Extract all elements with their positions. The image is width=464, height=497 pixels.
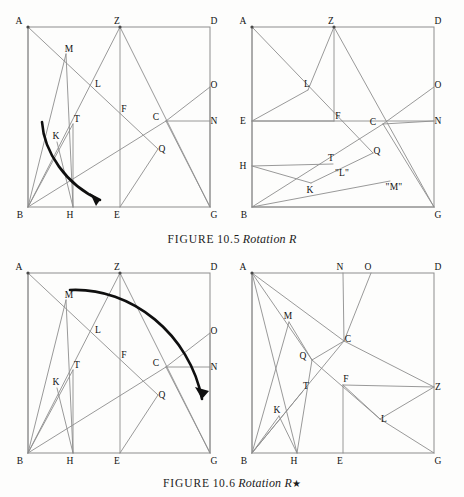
point-label-f: F — [343, 374, 348, 384]
segment-e-l — [252, 90, 308, 121]
point-label-e: E — [114, 210, 120, 220]
bounding-square — [28, 27, 210, 207]
figure-10-6-left-panel: AZDMLOFCNTKQBHEG — [4, 253, 230, 469]
point-label-b: B — [241, 456, 248, 466]
point-label-o: O — [364, 262, 371, 272]
figure-10-6-panels: AZDMLOFCNTKQBHEG ANODMCQFZTKLBHEG — [0, 253, 464, 475]
point-label-c: C — [153, 112, 160, 122]
point-label-c: C — [370, 117, 377, 127]
point-label-a: A — [239, 16, 246, 26]
point-label-g: G — [210, 210, 217, 220]
diagram-rotation-r-after: AZDLOEFCNQHTKBG"L""M" — [232, 0, 458, 222]
segment-c-g — [166, 121, 210, 207]
figure-10-6-right-panel: ANODMCQFZTKLBHEG — [232, 253, 458, 469]
point-label-o: O — [434, 80, 441, 90]
figure-page: AZDMLOFCNTKQBHEG AZDLOEFCNQHTKBG"L""M" F… — [0, 0, 464, 497]
point-label-o: O — [210, 80, 217, 90]
vertex-dot-a — [250, 25, 253, 28]
point-label-t: T — [74, 114, 80, 124]
caption-label: FIGURE — [163, 477, 210, 489]
point-label-h: H — [290, 456, 297, 466]
point-label-q: Q — [373, 146, 380, 156]
point-label-b: B — [17, 210, 24, 220]
segment-b-t — [28, 370, 73, 453]
point-label-k: K — [273, 405, 280, 415]
point-label-l: L — [95, 325, 101, 335]
point-label-z: Z — [435, 382, 441, 392]
segment-n-c — [343, 273, 344, 341]
point-label-h: H — [66, 210, 73, 220]
segment-c-z — [344, 341, 434, 387]
point-label-a: A — [15, 262, 22, 272]
vertex-dot-a — [250, 271, 253, 274]
point-label-t: T — [74, 360, 80, 370]
segment-c-o — [383, 87, 434, 124]
segment-a-c — [252, 273, 344, 341]
figure-10-5-caption: FIGURE 10.5 Rotation R — [0, 232, 464, 247]
segment-b-t — [28, 124, 73, 207]
segment-b-m — [252, 322, 289, 453]
rotation-arrow-star-clockwise-head — [195, 387, 209, 399]
vertex-dot-a — [26, 25, 29, 28]
figure-10-6-caption: FIGURE 10.6 Rotation R★ — [0, 476, 464, 491]
segment-f-z — [343, 385, 434, 387]
rotation-arrow-star-clockwise — [70, 290, 202, 399]
diagram-rotation-r-before: AZDMLOFCNTKQBHEG — [4, 0, 230, 222]
segment-c-g — [383, 124, 434, 207]
point-label-b: B — [241, 210, 248, 220]
point-label-k: K — [52, 377, 59, 387]
figure-10-5-panels: AZDMLOFCNTKQBHEG AZDLOEFCNQHTKBG"L""M" — [0, 0, 464, 222]
segment-c-g — [166, 367, 210, 453]
point-label-l: L — [304, 79, 310, 89]
point-label-o: O — [210, 326, 217, 336]
point-label-n: N — [210, 362, 217, 372]
point-label-d: D — [434, 262, 441, 272]
point-label-h: H — [239, 161, 246, 171]
point-label-l: L — [95, 79, 101, 89]
segment-b-t — [252, 391, 303, 453]
segment-c-q — [312, 341, 344, 360]
segment-l-g — [380, 419, 434, 453]
point-label-n: N — [336, 262, 343, 272]
point-label-a: A — [15, 16, 22, 26]
segment-q-h — [297, 360, 312, 453]
point-label-f: F — [121, 104, 126, 114]
point-label-l: L — [381, 414, 387, 424]
point-label-q: Q — [158, 390, 165, 400]
caption-title: Rotation R — [243, 232, 297, 246]
segment-z-g — [334, 27, 434, 207]
caption-title: Rotation R — [238, 476, 292, 490]
bounding-square — [28, 273, 210, 453]
segment-q-e — [120, 395, 158, 453]
caption-star: ★ — [292, 478, 301, 489]
segment-l-z — [380, 387, 434, 419]
segment-h-k — [252, 166, 311, 183]
bounding-square — [252, 27, 434, 207]
point-label-g: G — [210, 456, 217, 466]
segment-o-c — [344, 273, 371, 341]
point-label-c: C — [345, 334, 352, 344]
point-label-f: F — [335, 111, 340, 121]
point-label-k: K — [306, 185, 313, 195]
segment-k-h — [279, 416, 297, 453]
segment-b-c — [28, 367, 166, 453]
quoted-point-label-0: "L" — [335, 168, 349, 178]
segment-f-l — [343, 385, 380, 419]
segment-a-q — [28, 27, 158, 149]
point-label-h: H — [66, 456, 73, 466]
point-label-b: B — [17, 456, 24, 466]
figure-10-5: AZDMLOFCNTKQBHEG AZDLOEFCNQHTKBG"L""M" F… — [0, 0, 464, 252]
quoted-point-label-1: "M" — [386, 182, 403, 192]
point-label-g: G — [434, 456, 441, 466]
segment-h-t — [252, 164, 333, 166]
segment-b-m — [28, 300, 66, 453]
point-label-n: N — [434, 116, 441, 126]
point-label-n: N — [210, 116, 217, 126]
point-label-a: A — [239, 262, 246, 272]
point-label-g: G — [434, 210, 441, 220]
point-label-c: C — [153, 358, 160, 368]
vertex-dot-a — [26, 271, 29, 274]
point-label-q: Q — [158, 144, 165, 154]
segment-b-c — [28, 121, 166, 207]
segment-a-q — [252, 27, 373, 153]
